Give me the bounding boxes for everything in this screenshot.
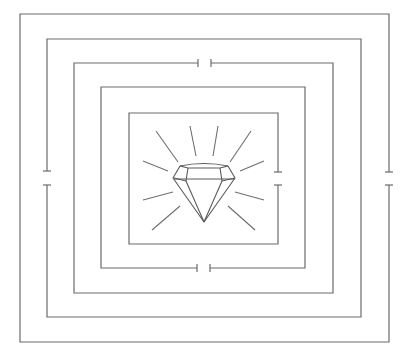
maze-puzzle: Diamond maze xyxy=(0,0,411,359)
maze-canvas xyxy=(0,0,411,359)
diamond-icon xyxy=(143,126,264,230)
ring-3-wall xyxy=(74,59,333,293)
ring-2-wall xyxy=(43,39,361,317)
sparkle-rays-icon xyxy=(143,126,264,230)
